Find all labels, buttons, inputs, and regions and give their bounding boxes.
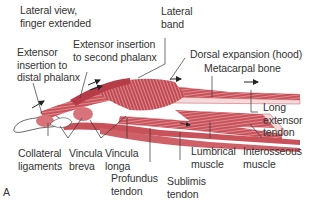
label-long-extensor-tendon: Long extensor tendon <box>263 101 302 139</box>
label-vincula-longa: Vincula longa <box>105 147 139 172</box>
label-interosseous-muscle: Interosseous muscle <box>243 145 302 170</box>
label-lateral-band: Lateral band <box>161 5 192 30</box>
label-metacarpal-bone: Metacarpal bone <box>204 62 281 75</box>
panel-letter: A <box>3 186 10 199</box>
label-lumbrical-muscle: Lumbrical muscle <box>191 145 236 170</box>
finger-anatomy-diagram: Lateral view, finger extended Lateral ba… <box>0 0 318 208</box>
collateral-ligament-middle <box>73 107 93 121</box>
label-vincula-breva: Vincula breva <box>69 147 103 172</box>
label-profundus-tendon: Profundus tendon <box>111 172 158 197</box>
label-extensor-insertion-distal-phalanx: Extensor insertion to distal phalanx <box>17 46 80 84</box>
label-sublimis-tendon: Sublimis tendon <box>167 175 206 200</box>
label-extensor-insertion-second-phalanx: Extensor insertion to second phalanx <box>73 38 157 63</box>
label-dorsal-expansion: Dorsal expansion (hood) <box>190 48 302 61</box>
view-caption: Lateral view, finger extended <box>20 4 91 29</box>
label-collateral-ligaments: Collateral ligaments <box>18 147 62 172</box>
